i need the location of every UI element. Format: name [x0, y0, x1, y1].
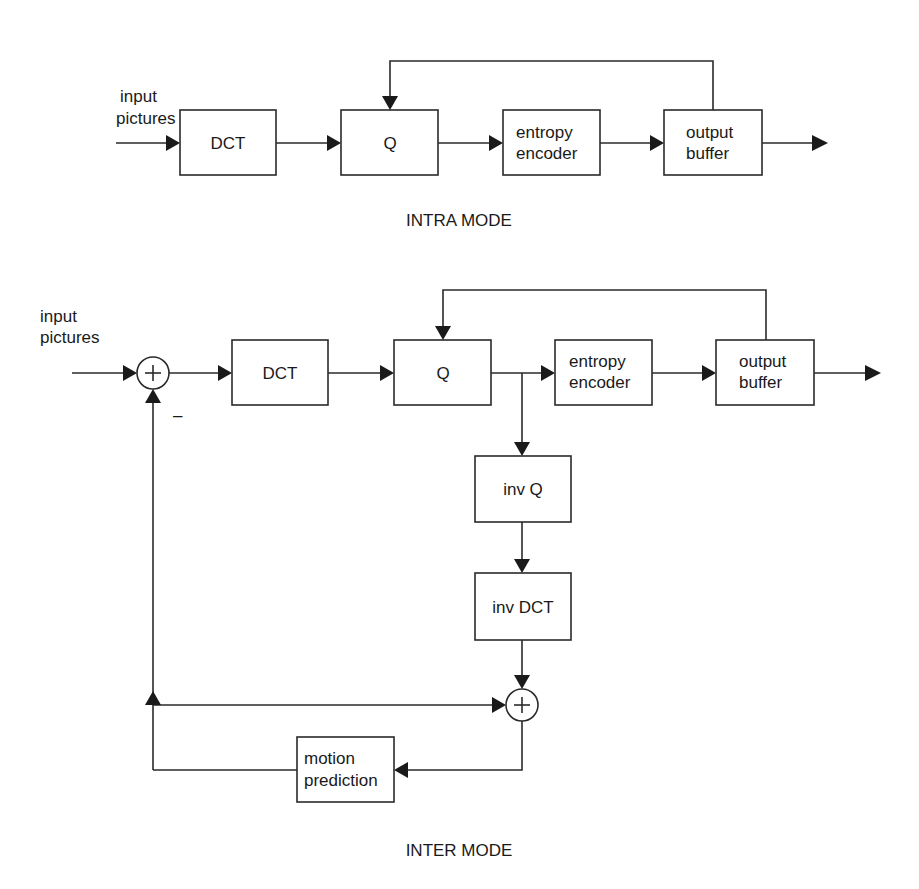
arrow-right-icon	[541, 365, 555, 381]
inter-q-label: Q	[436, 364, 449, 383]
arrow-down-icon	[514, 559, 530, 573]
inter-output-buffer-block: output buffer	[716, 340, 814, 405]
inter-input-label-line2: pictures	[40, 328, 100, 347]
inter-reconstruction-adder-node	[506, 689, 538, 721]
arrow-right-icon	[702, 365, 716, 381]
inter-subtractor-node	[137, 357, 169, 389]
arrow-down-icon	[514, 442, 530, 456]
inv-q-label: inv Q	[503, 480, 543, 499]
intra-dct-label: DCT	[211, 134, 246, 153]
intra-entropy-label-line1: entropy	[516, 123, 573, 142]
arrow-right-icon	[380, 365, 394, 381]
intra-input-label-line1: input	[120, 87, 157, 106]
intra-buffer-label-line2: buffer	[686, 144, 730, 163]
intra-dct-block: DCT	[180, 110, 276, 175]
minus-sign: –	[173, 406, 183, 425]
arrow-right-icon	[865, 365, 881, 381]
intra-mode-caption: INTRA MODE	[406, 211, 512, 230]
intra-entropy-label-line2: encoder	[516, 144, 578, 163]
intra-q-label: Q	[383, 134, 396, 153]
inv-dct-label: inv DCT	[492, 598, 553, 617]
intra-input-label-line2: pictures	[116, 109, 176, 128]
intra-output-buffer-block: output buffer	[664, 110, 762, 175]
intra-entropy-encoder-block: entropy encoder	[503, 110, 600, 175]
arrow-right-icon	[327, 135, 341, 151]
inv-q-block: inv Q	[475, 456, 571, 522]
intra-buffer-label-line1: output	[686, 123, 734, 142]
arrow-right-icon	[218, 365, 232, 381]
arrow-right-icon	[123, 365, 137, 381]
inter-rate-feedback-line	[443, 290, 766, 340]
arrow-right-icon	[489, 135, 503, 151]
arrow-right-icon	[492, 697, 506, 713]
arrow-up-icon	[145, 691, 161, 705]
arrow-left-icon	[394, 762, 408, 778]
arrow-right-icon	[166, 135, 180, 151]
inter-q-block: Q	[394, 340, 491, 405]
arrow-down-icon	[435, 326, 451, 340]
inter-buffer-label-line1: output	[739, 352, 787, 371]
arrow-right-icon	[812, 135, 828, 151]
intra-q-block: Q	[341, 110, 438, 175]
mpeg-encoder-diagram: input pictures DCT Q entropy encoder	[0, 0, 919, 889]
adder-to-motion-line	[408, 721, 522, 770]
intra-rate-feedback-line	[390, 61, 713, 110]
arrow-up-icon	[145, 389, 161, 403]
inter-mode-diagram: input pictures – DCT Q e	[40, 290, 881, 860]
inter-input-label-line1: input	[40, 307, 77, 326]
inter-dct-block: DCT	[232, 340, 328, 405]
inter-dct-label: DCT	[263, 364, 298, 383]
arrow-down-icon	[514, 675, 530, 689]
inter-entropy-label-line2: encoder	[569, 373, 631, 392]
inter-mode-caption: INTER MODE	[406, 841, 513, 860]
arrow-right-icon	[650, 135, 664, 151]
inter-entropy-label-line1: entropy	[569, 352, 626, 371]
intra-mode-diagram: input pictures DCT Q entropy encoder	[116, 61, 828, 230]
inter-buffer-label-line2: buffer	[739, 373, 783, 392]
motion-label-line2: prediction	[304, 771, 378, 790]
motion-label-line1: motion	[304, 749, 355, 768]
inv-dct-block: inv DCT	[475, 573, 571, 640]
arrow-down-icon	[382, 96, 398, 110]
inter-entropy-encoder-block: entropy encoder	[555, 340, 652, 405]
motion-prediction-block: motion prediction	[297, 737, 394, 802]
